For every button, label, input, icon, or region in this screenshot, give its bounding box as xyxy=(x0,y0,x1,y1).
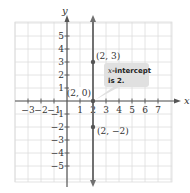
x-tick-label: 4 xyxy=(116,105,122,115)
x-tick-label: −3 xyxy=(21,105,35,115)
data-point xyxy=(91,125,95,129)
y-tick-label: 2 xyxy=(58,70,64,80)
y-tick-label: −4 xyxy=(51,148,65,158)
data-point xyxy=(91,60,95,64)
x-tick-label: 5 xyxy=(129,105,135,115)
y-tick-label: −1 xyxy=(51,109,64,119)
y-tick-label: 5 xyxy=(58,31,64,41)
coordinate-plane: xy −3−2−11234567−5−4−3−2−112345 x-interc… xyxy=(0,0,190,193)
x-intercept-callout: x-interceptis 2. xyxy=(95,63,152,100)
x-tick-label: 7 xyxy=(155,105,161,115)
y-axis-label: y xyxy=(61,5,68,16)
point-label: (2, 3) xyxy=(96,51,120,61)
graph-figure: xy −3−2−11234567−5−4−3−2−112345 x-interc… xyxy=(0,0,190,193)
point-label: (2, 0) xyxy=(67,88,91,98)
x-tick-label: 3 xyxy=(103,105,109,115)
y-tick-label: −3 xyxy=(51,135,65,145)
y-tick-label: 1 xyxy=(58,83,64,93)
line-up-arrow-icon xyxy=(90,15,96,22)
x-axis-arrow-icon xyxy=(174,99,181,104)
x-tick-label: −2 xyxy=(34,105,47,115)
y-tick-label: −5 xyxy=(51,161,65,171)
y-tick-label: 4 xyxy=(58,44,64,54)
x-tick-label: 6 xyxy=(142,105,148,115)
line-down-arrow-icon xyxy=(90,180,96,187)
x-axis-label: x xyxy=(184,95,190,106)
y-axis-arrow-icon xyxy=(65,15,70,22)
y-tick-label: −2 xyxy=(51,122,64,132)
callout-text-line2: is 2. xyxy=(108,77,125,85)
callout-text-line1: x-intercept xyxy=(108,67,152,75)
x-tick-label: 1 xyxy=(77,105,83,115)
y-tick-label: 3 xyxy=(58,57,64,67)
point-label: (2, −2) xyxy=(97,126,129,136)
data-point xyxy=(91,99,95,103)
